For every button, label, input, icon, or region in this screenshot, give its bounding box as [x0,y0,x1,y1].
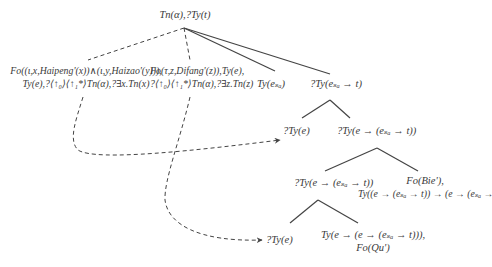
node-adjunct-left: Fo((ι,x,Haipeng'(x))∧(ι,y,Haizao'(y))), … [2,64,170,90]
edge-root-adjunct-right [184,28,190,60]
edge-pred2-bie [377,148,418,171]
node-qu-line-2: Fo(Qu') [318,241,428,254]
edge-pred3-qu [318,200,358,223]
edge-pred2-pred3 [325,148,377,171]
node-pred2-line-1: ?Ty(e → (eₛₐ → t)) [337,124,416,137]
tree-edges [0,0,492,267]
node-object: ?Ty(e) [266,233,293,246]
node-pred2: ?Ty(e → (eₛₐ → t)) [337,124,416,137]
edge-adjunct-right-to-object [165,97,262,240]
node-adjunct-left-line-1: Fo((ι,x,Haipeng'(x))∧(ι,y,Haizao'(y))), [2,64,170,77]
node-event-arg: Ty(eₛₐ) [257,77,285,90]
node-predicate-line-1: ?Ty(eₛₐ → t) [310,77,362,90]
edge-predicate-subject [302,100,330,118]
edge-root-adjunct-left [88,28,184,60]
node-adjunct-right-line-1: Fo(τ,z,Difang'(z)),Ty(e), [150,64,253,77]
node-bie: Fo(Bie'), Ty((e → (eₛₐ → t)) → (e → (eₛₐ… [358,174,492,200]
node-bie-line-1: Fo(Bie'), [358,174,492,187]
node-subject: ?Ty(e) [283,124,310,137]
node-adjunct-right: Fo(τ,z,Difang'(z)),Ty(e), ?⟨↑₀⟩⟨↑₁*⟩Tn(α… [150,64,253,90]
node-root-line-1: Tn(α),?Ty(t) [150,8,220,21]
node-qu-line-1: Ty(e → (e → (eₛₐ → t))), [318,228,428,241]
edge-pred3-object [290,200,318,223]
node-subject-line-1: ?Ty(e) [283,124,310,137]
node-root: Tn(α),?Ty(t) [150,8,220,21]
node-event-arg-line-1: Ty(eₛₐ) [257,77,285,90]
node-adjunct-left-line-2: Ty(e),?⟨↑₀⟩⟨↑₁*⟩Tn(α),?∃x.Tn(x) [2,77,170,90]
node-bie-line-2: Ty((e → (eₛₐ → t)) → (e → (eₛₐ → t))) [358,187,492,200]
node-qu: Ty(e → (e → (eₛₐ → t))), Fo(Qu') [318,228,428,254]
node-predicate: ?Ty(eₛₐ → t) [310,77,362,90]
node-adjunct-right-line-2: ?⟨↑₀⟩⟨↑₁*⟩Tn(α),?∃z.Tn(z) [150,77,253,90]
edge-predicate-pred2 [330,100,350,118]
node-object-line-1: ?Ty(e) [266,233,293,246]
